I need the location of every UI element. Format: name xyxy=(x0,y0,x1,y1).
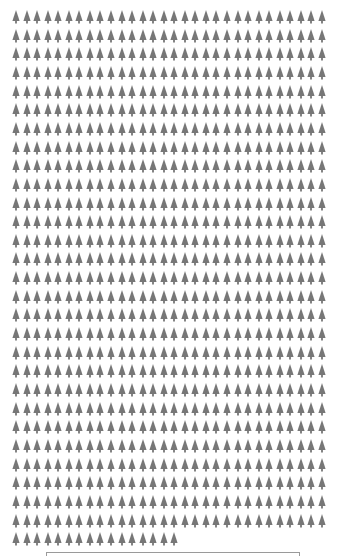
tree-icon xyxy=(244,271,252,285)
tree-icon xyxy=(276,234,284,248)
tree-icon xyxy=(170,476,178,490)
tree-icon xyxy=(318,197,326,211)
tree-icon xyxy=(170,383,178,397)
tree-icon xyxy=(170,420,178,434)
tree-icon xyxy=(234,495,242,509)
tree-icon xyxy=(75,495,83,509)
tree-icon xyxy=(170,66,178,80)
tree-icon xyxy=(86,103,94,117)
tree-icon xyxy=(191,252,199,266)
tree-icon xyxy=(75,532,83,546)
tree-icon xyxy=(276,85,284,99)
tree-icon xyxy=(86,159,94,173)
tree-icon xyxy=(139,252,147,266)
tree-icon xyxy=(33,197,41,211)
tree-icon xyxy=(33,402,41,416)
tree-icon xyxy=(181,159,189,173)
tree-icon xyxy=(33,66,41,80)
tree-icon xyxy=(191,346,199,360)
tree-icon xyxy=(33,514,41,528)
tree-icon xyxy=(276,10,284,24)
tree-icon xyxy=(96,252,104,266)
tree-icon xyxy=(276,103,284,117)
tree-icon xyxy=(44,420,52,434)
tree-icon xyxy=(170,290,178,304)
tree-icon xyxy=(86,47,94,61)
tree-icon xyxy=(96,85,104,99)
tree-icon xyxy=(149,215,157,229)
tree-icon xyxy=(149,85,157,99)
tree-icon xyxy=(223,439,231,453)
tree-icon xyxy=(33,346,41,360)
tree-icon xyxy=(276,122,284,136)
tree-icon xyxy=(54,10,62,24)
tree-icon xyxy=(44,47,52,61)
tree-icon xyxy=(244,85,252,99)
tree-icon xyxy=(191,383,199,397)
tree-icon xyxy=(307,514,315,528)
tree-icon xyxy=(139,458,147,472)
tree-icon xyxy=(54,402,62,416)
tree-icon xyxy=(297,252,305,266)
tree-icon xyxy=(44,532,52,546)
tree-icon xyxy=(318,495,326,509)
tree-icon xyxy=(181,402,189,416)
tree-icon xyxy=(149,252,157,266)
tree-icon xyxy=(255,10,263,24)
tree-icon xyxy=(75,290,83,304)
tree-icon xyxy=(307,364,315,378)
tree-icon xyxy=(139,476,147,490)
tree-icon xyxy=(118,458,126,472)
tree-icon xyxy=(223,103,231,117)
tree-icon xyxy=(118,476,126,490)
tree-icon xyxy=(23,234,31,248)
tree-icon xyxy=(244,29,252,43)
tree-icon xyxy=(255,66,263,80)
tree-icon xyxy=(23,495,31,509)
tree-icon xyxy=(44,66,52,80)
tree-icon xyxy=(33,178,41,192)
tree-icon xyxy=(139,234,147,248)
tree-icon xyxy=(318,215,326,229)
tree-icon xyxy=(118,420,126,434)
tree-icon xyxy=(191,476,199,490)
tree-icon xyxy=(107,234,115,248)
tree-icon xyxy=(234,271,242,285)
tree-icon xyxy=(234,439,242,453)
tree-icon xyxy=(149,10,157,24)
tree-icon xyxy=(23,364,31,378)
tree-icon xyxy=(128,495,136,509)
tree-icon xyxy=(265,197,273,211)
tree-icon xyxy=(202,476,210,490)
tree-icon xyxy=(223,458,231,472)
tree-icon xyxy=(191,308,199,322)
tree-icon xyxy=(212,10,220,24)
tree-icon xyxy=(234,476,242,490)
tree-icon xyxy=(276,29,284,43)
tree-icon xyxy=(12,66,20,80)
tree-icon xyxy=(96,383,104,397)
tree-icon xyxy=(160,66,168,80)
tree-icon xyxy=(118,308,126,322)
tree-icon xyxy=(191,122,199,136)
tree-icon xyxy=(33,420,41,434)
tree-icon xyxy=(255,308,263,322)
tree-icon xyxy=(160,103,168,117)
tree-icon xyxy=(139,346,147,360)
tree-icon xyxy=(286,141,294,155)
tree-icon xyxy=(128,532,136,546)
tree-icon xyxy=(265,495,273,509)
tree-icon xyxy=(286,66,294,80)
tree-icon xyxy=(297,308,305,322)
tree-icon xyxy=(212,85,220,99)
tree-icon xyxy=(118,290,126,304)
tree-icon xyxy=(33,290,41,304)
tree-icon xyxy=(297,327,305,341)
tree-icon xyxy=(212,364,220,378)
tree-icon xyxy=(318,103,326,117)
tree-icon xyxy=(318,458,326,472)
tree-icon xyxy=(255,346,263,360)
tree-icon xyxy=(12,103,20,117)
tree-icon xyxy=(276,495,284,509)
tree-icon xyxy=(265,383,273,397)
